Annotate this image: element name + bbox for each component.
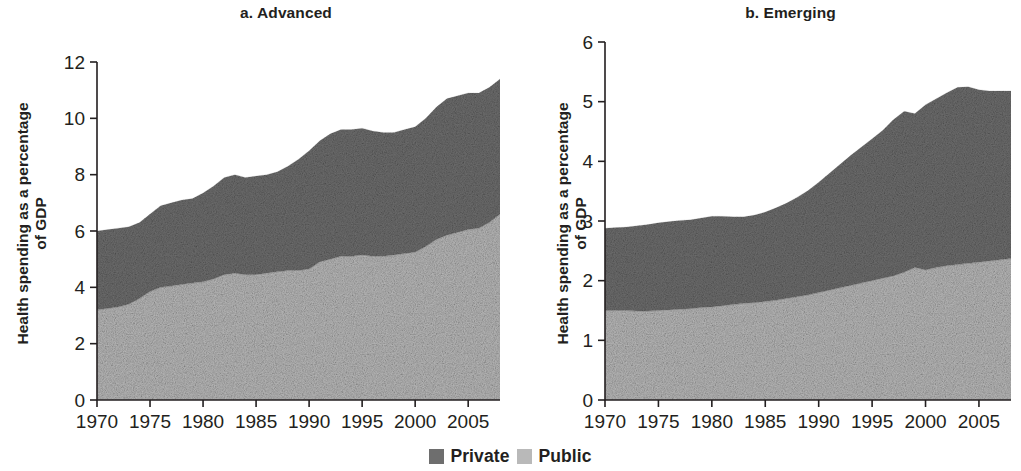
svg-text:1995: 1995 <box>341 411 383 432</box>
svg-text:8: 8 <box>74 164 85 185</box>
svg-text:1990: 1990 <box>798 411 840 432</box>
svg-text:4: 4 <box>582 151 593 172</box>
svg-text:1: 1 <box>582 330 593 351</box>
stacked-area-figure: a. Advanced Health spending as a percent… <box>0 0 1021 471</box>
svg-text:1985: 1985 <box>744 411 786 432</box>
svg-text:1970: 1970 <box>76 411 118 432</box>
svg-text:1990: 1990 <box>288 411 330 432</box>
svg-text:1980: 1980 <box>182 411 224 432</box>
svg-text:12: 12 <box>64 52 85 73</box>
svg-text:2000: 2000 <box>394 411 436 432</box>
panel-b-plot: 012345619701975198019851990199520002005 <box>520 0 1021 440</box>
svg-text:1985: 1985 <box>235 411 277 432</box>
svg-text:6: 6 <box>582 32 593 53</box>
svg-text:2: 2 <box>74 333 85 354</box>
svg-text:1970: 1970 <box>584 411 626 432</box>
svg-text:2005: 2005 <box>447 411 489 432</box>
svg-text:5: 5 <box>582 91 593 112</box>
panel-a-plot: 0246810121970197519801985199019952000200… <box>0 0 520 440</box>
svg-text:4: 4 <box>74 277 85 298</box>
svg-text:1995: 1995 <box>851 411 893 432</box>
svg-text:0: 0 <box>74 390 85 411</box>
chart-panel-advanced: a. Advanced Health spending as a percent… <box>0 0 520 440</box>
svg-text:0: 0 <box>582 390 593 411</box>
chart-panel-emerging: b. Emerging Health spending as a percent… <box>520 0 1021 440</box>
svg-text:10: 10 <box>64 108 85 129</box>
svg-text:2005: 2005 <box>958 411 1000 432</box>
svg-text:1975: 1975 <box>637 411 679 432</box>
svg-text:3: 3 <box>582 211 593 232</box>
svg-text:6: 6 <box>74 221 85 242</box>
legend-swatch-private <box>429 449 444 464</box>
legend-item-public: Public <box>517 446 591 467</box>
legend-item-private: Private <box>429 446 509 467</box>
svg-text:2000: 2000 <box>904 411 946 432</box>
legend-swatch-public <box>517 449 532 464</box>
legend-label-private: Private <box>450 446 509 467</box>
chart-legend: Private Public <box>0 441 1021 471</box>
svg-text:2: 2 <box>582 270 593 291</box>
svg-text:1980: 1980 <box>691 411 733 432</box>
legend-label-public: Public <box>538 446 591 467</box>
svg-text:1975: 1975 <box>129 411 171 432</box>
